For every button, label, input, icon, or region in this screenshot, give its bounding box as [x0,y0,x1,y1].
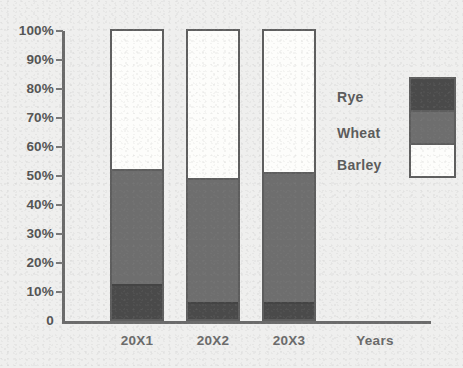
bar-20X3[interactable] [262,29,316,321]
x-axis-title: Years [340,333,410,348]
legend-swatch-box [409,77,456,178]
y-tick-text: 70% [2,110,54,125]
y-tick-label-60: 60% [0,139,54,153]
y-tick-text: 0 [2,313,54,328]
x-tick-label-1: 20X2 [179,333,247,348]
bar-20X2[interactable] [186,29,240,321]
legend-label-barley: Barley [337,157,382,173]
y-tick-label-30: 30% [0,226,54,240]
y-tick-text: 100% [2,23,54,38]
segment-wheat-20X3 [264,172,314,302]
legend-swatch-rye [411,79,454,110]
y-axis-line [62,31,65,323]
segment-rye-20X3 [264,302,314,319]
y-tick-label-10: 10% [0,284,54,298]
y-tick-mark-40 [56,204,63,206]
y-tick-text: 20% [2,255,54,270]
segment-barley-20X1 [112,31,162,169]
stacked-bar-chart: 100%90%80%70%60%50%40%30%20%10%0 20X1 20… [0,0,463,368]
x-axis-line [62,321,431,324]
y-tick-mark-90 [56,59,63,61]
y-tick-text: 60% [2,139,54,154]
segment-wheat-20X2 [188,178,238,302]
segment-barley-20X2 [188,31,238,178]
y-tick-label-0: 0 [0,313,54,327]
bar-20X1[interactable] [110,29,164,321]
legend-label-wheat: Wheat [337,125,381,141]
y-tick-mark-10 [56,291,63,293]
y-tick-text: 50% [2,168,54,183]
legend-swatch-barley [411,143,454,176]
y-tick-mark-60 [56,146,63,148]
y-tick-label-50: 50% [0,168,54,182]
y-tick-mark-70 [56,117,63,119]
y-tick-mark-50 [56,175,63,177]
y-tick-label-70: 70% [0,110,54,124]
y-tick-label-40: 40% [0,197,54,211]
y-tick-mark-30 [56,233,63,235]
y-tick-mark-100 [56,30,63,32]
y-tick-text: 10% [2,284,54,299]
y-tick-mark-80 [56,88,63,90]
y-tick-text: 30% [2,226,54,241]
x-tick-label-2: 20X3 [255,333,323,348]
legend-label-rye: Rye [337,89,364,105]
legend-swatch-wheat [411,110,454,143]
y-tick-label-20: 20% [0,255,54,269]
y-tick-text: 40% [2,197,54,212]
y-tick-text: 90% [2,52,54,67]
y-tick-label-100: 100% [0,23,54,37]
y-tick-label-90: 90% [0,52,54,66]
segment-barley-20X3 [264,31,314,172]
segment-rye-20X1 [112,284,162,319]
segment-wheat-20X1 [112,169,162,284]
y-tick-text: 80% [2,81,54,96]
segment-rye-20X2 [188,302,238,319]
x-tick-label-0: 20X1 [103,333,171,348]
y-tick-label-80: 80% [0,81,54,95]
y-tick-mark-20 [56,262,63,264]
